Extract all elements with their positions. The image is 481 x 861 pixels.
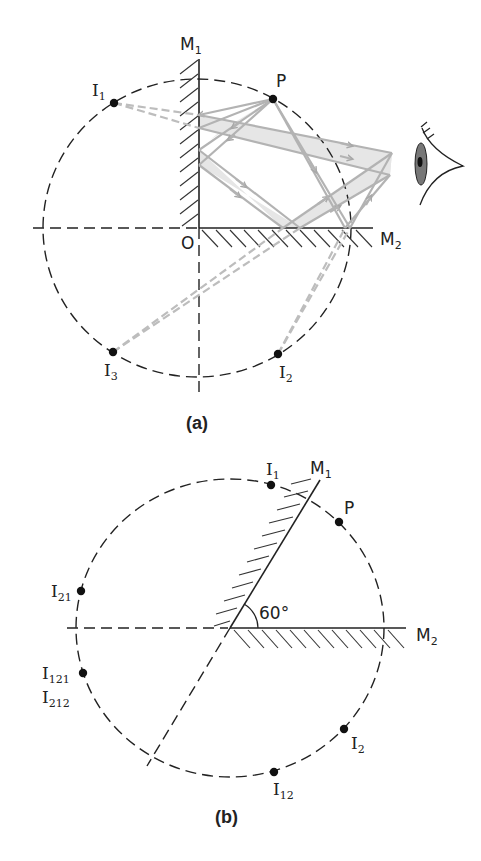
label-p-a: P <box>276 71 286 91</box>
mirror-m1-a <box>180 59 199 228</box>
image-point-i12-b <box>270 768 278 776</box>
label-i21-b: I21 <box>51 581 72 604</box>
label-i212-b: I212 <box>42 687 70 710</box>
mirror-m1-extension-b <box>147 628 230 766</box>
ray-bands-a <box>199 99 392 228</box>
label-i121-b: I121 <box>42 663 70 686</box>
figure-a: M1 M2 O P I1 I2 I3 (a) <box>33 34 463 433</box>
mirror-images-diagram: M1 M2 O P I1 I2 I3 (a) <box>0 0 481 861</box>
label-m2-b: M2 <box>416 625 438 648</box>
image-point-i1-b <box>267 481 275 489</box>
angle-arc <box>244 604 258 628</box>
image-point-i121-i212-b <box>79 669 87 677</box>
label-origin-a: O <box>181 233 194 253</box>
image-point-i2-b <box>340 725 348 733</box>
mirror-m2-b <box>230 628 406 648</box>
figure-b: 60° M1 M2 P I1 I21 I121 I212 I2 I12 (b) <box>42 458 438 827</box>
label-angle-b: 60° <box>259 603 289 623</box>
label-m2-a: M2 <box>380 229 402 252</box>
label-m1-b: M1 <box>310 458 332 481</box>
image-point-i3-a <box>109 348 117 356</box>
image-point-i2-a <box>274 350 282 358</box>
label-i2-a: I2 <box>279 362 293 385</box>
image-point-i21-b <box>77 587 85 595</box>
image-point-i1-a <box>110 99 118 107</box>
caption-b: (b) <box>215 807 238 827</box>
object-point-p-a <box>269 95 277 103</box>
label-i3-a: I3 <box>104 360 118 383</box>
label-i2-b: I2 <box>351 733 365 756</box>
eye-icon <box>415 122 463 205</box>
label-p-b: P <box>344 498 354 518</box>
label-i1-a: I1 <box>92 80 106 103</box>
object-point-p-b <box>335 518 343 526</box>
label-m1-a: M1 <box>180 34 202 57</box>
label-i1-b: I1 <box>266 459 280 482</box>
label-i12-b: I12 <box>273 779 294 802</box>
caption-a: (a) <box>186 413 208 433</box>
